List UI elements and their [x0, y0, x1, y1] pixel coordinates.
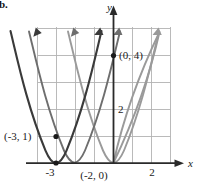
y-axis-label: y: [106, 1, 112, 13]
point-marker-extra: [53, 134, 58, 139]
x-tick-label-neg3: -3: [45, 166, 55, 178]
x-axis-label: x: [187, 157, 193, 169]
coordinate-plane-graph: y x -3 2 2 (0, 4) (-3, 1) (-2, 0): [0, 0, 201, 186]
point-marker-y-intercept: [111, 53, 116, 58]
part-label: b.: [0, 0, 7, 10]
label-vertex: (-2, 0): [80, 169, 108, 182]
parabola-figure: b.: [0, 0, 201, 186]
label-y-intercept: (0, 4): [119, 49, 143, 62]
y-tick-label-pos2: 2: [118, 103, 124, 115]
point-marker-vertex: [53, 160, 58, 165]
label-extra-point: (-3, 1): [4, 130, 32, 143]
x-tick-label-pos2: 2: [149, 166, 155, 178]
axes: [26, 6, 184, 168]
x-axis-arrowhead-icon: [175, 159, 185, 167]
